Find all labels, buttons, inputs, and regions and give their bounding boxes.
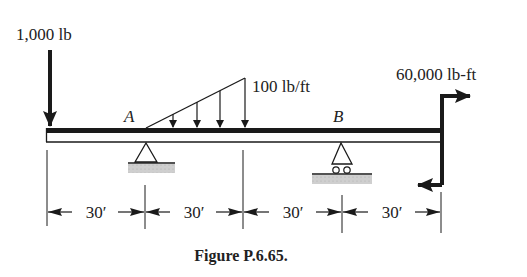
beam <box>46 128 443 142</box>
couple-top-arrow-icon <box>442 96 470 185</box>
dimension-label: 30′ <box>382 203 403 222</box>
dimensions: 30′ 30′ 30′ 30′ <box>48 203 440 222</box>
ground-hatch <box>128 164 175 173</box>
distributed-load-label: 100 lb/ft <box>252 77 310 96</box>
dimension-label: 30′ <box>86 203 107 222</box>
support-b-label: B <box>333 107 344 126</box>
beam-top-edge <box>46 128 443 133</box>
dimension-label: 30′ <box>283 203 304 222</box>
support-a-label: A <box>123 107 135 126</box>
point-load: 1,000 lb <box>16 25 72 126</box>
load-envelope <box>146 78 245 128</box>
roller-wheel-icon <box>344 167 350 173</box>
pin-support-icon <box>135 143 157 162</box>
roller-support-icon <box>332 143 352 164</box>
ground-hatch <box>312 175 372 184</box>
couple-label: 60,000 lb-ft <box>396 65 477 84</box>
support-b: B <box>312 107 372 184</box>
couple-moment: 60,000 lb-ft <box>396 65 477 185</box>
distributed-load: 100 lb/ft <box>146 77 310 128</box>
dimension-label: 30′ <box>184 203 205 222</box>
beam-diagram: 1,000 lb 100 lb/ft A B 60,000 lb-ft <box>0 0 527 277</box>
point-load-label: 1,000 lb <box>16 25 72 44</box>
figure-caption: Figure P.6.65. <box>194 247 287 265</box>
roller-wheel-icon <box>333 167 339 173</box>
